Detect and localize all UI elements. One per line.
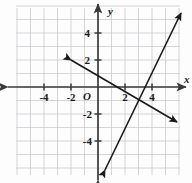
x-axis-label: x: [183, 73, 190, 85]
y-tick-label-pos2: 2: [85, 54, 91, 66]
x-tick-label-pos4: 4: [149, 91, 155, 103]
x-tick-label-neg4: -4: [39, 91, 49, 103]
y-tick-label-neg4: -4: [83, 135, 93, 147]
y-axis-label: y: [106, 5, 113, 17]
x-tick-label-pos2: 2: [122, 91, 128, 103]
graph-figure: y x O -4 -2 2 4 4 2 -2 -4: [0, 0, 192, 183]
coordinate-plane-svg: y x O -4 -2 2 4 4 2 -2 -4: [0, 0, 192, 183]
origin-label: O: [83, 90, 91, 102]
y-tick-label-pos4: 4: [85, 27, 91, 39]
x-tick-label-neg2: -2: [66, 91, 76, 103]
y-tick-label-neg2: -2: [83, 108, 93, 120]
